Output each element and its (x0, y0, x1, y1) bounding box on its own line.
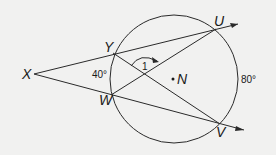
arrow-v (235, 126, 244, 131)
chord-yv (113, 53, 220, 124)
label-y: Y (104, 39, 115, 55)
label-v: V (216, 124, 227, 140)
arrow-u (230, 23, 238, 28)
label-x: X (21, 66, 32, 82)
angle-arrow (152, 57, 159, 63)
secant-xu (34, 24, 238, 74)
center-dot (172, 78, 175, 81)
circle-diagram: X Y W U V N 1 40° 80° (0, 0, 276, 155)
arc-80-label: 80° (241, 74, 256, 85)
secant-xv (34, 74, 244, 130)
angle-1-label: 1 (142, 61, 148, 72)
arc-40-label: 40° (92, 69, 107, 80)
label-n: N (177, 71, 188, 87)
label-w: W (99, 92, 114, 108)
label-u: U (214, 13, 225, 29)
